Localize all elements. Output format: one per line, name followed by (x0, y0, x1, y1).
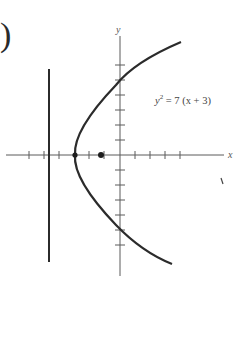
stray-mark (221, 178, 223, 184)
parabola-diagram: y x y2 = 7 (x + 3) (0, 0, 242, 343)
focus-point (98, 152, 104, 158)
y-axis-label: y (115, 24, 121, 35)
equation-label: y2 = 7 (x + 3) (154, 93, 211, 107)
equation-rhs: = 7 (x + 3) (163, 95, 211, 107)
x-axis-label: x (227, 149, 233, 160)
vertex-point (72, 152, 77, 157)
